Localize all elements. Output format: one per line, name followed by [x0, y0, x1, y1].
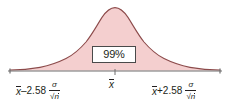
sqrt-n-denominator-right: √n: [185, 91, 196, 101]
sigma-numerator-left: σ: [51, 81, 58, 90]
n-under-radical-right: n: [191, 92, 195, 101]
axis-label-lower-bound: x–2.58 σ √n: [16, 81, 60, 101]
sigma-numerator-right: σ: [187, 81, 194, 90]
x-bar-variable-left: x: [16, 86, 21, 97]
x-bar-variable-center: x: [109, 79, 114, 90]
confidence-level-label: 99%: [103, 49, 124, 60]
axis-label-mean: x: [109, 79, 114, 90]
confidence-level-box: 99%: [92, 46, 136, 63]
x-bar-variable-right: x: [152, 86, 157, 97]
normal-distribution-figure: 99% x–2.58 σ √n x x+2.58 σ √n: [0, 0, 230, 105]
standard-error-fraction-left: σ √n: [49, 81, 60, 101]
axis-label-upper-bound: x+2.58 σ √n: [152, 81, 196, 101]
lower-bound-operator: –2.58: [21, 86, 46, 96]
sqrt-n-denominator-left: √n: [49, 91, 60, 101]
n-under-radical-left: n: [55, 92, 59, 101]
standard-error-fraction-right: σ √n: [185, 81, 196, 101]
upper-bound-operator: +2.58: [157, 86, 182, 96]
